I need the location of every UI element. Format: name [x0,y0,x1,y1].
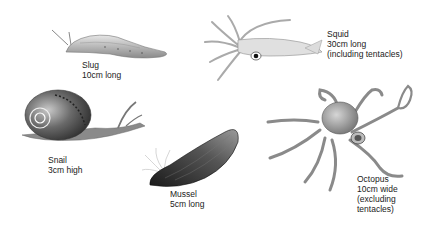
mussel-name: Mussel [170,189,205,199]
mussel-drawing [142,130,238,187]
octopus-note-2: tentacles) [357,204,398,214]
slug-size: 10cm long [82,70,121,80]
snail-drawing [22,90,145,140]
octopus-size: 10cm wide [357,184,398,194]
mussel-size: 5cm long [170,199,205,209]
snail-label: Snail 3cm high [48,155,83,175]
squid-size: 30cm long [327,39,403,49]
mussel-label: Mussel 5cm long [170,189,205,209]
octopus-note-1: (excluding [357,194,398,204]
slug-name: Slug [82,60,121,70]
octopus-label: Octopus 10cm wide (excluding tentacles) [357,174,398,214]
squid-label: Squid 30cm long (including tentacles) [327,29,403,59]
snail-name: Snail [48,155,83,165]
slug-drawing [52,30,167,58]
squid-name: Squid [327,29,403,39]
octopus-name: Octopus [357,174,398,184]
snail-size: 3cm high [48,165,83,175]
slug-label: Slug 10cm long [82,60,121,80]
squid-drawing [205,16,322,80]
squid-note: (including tentacles) [327,49,403,59]
